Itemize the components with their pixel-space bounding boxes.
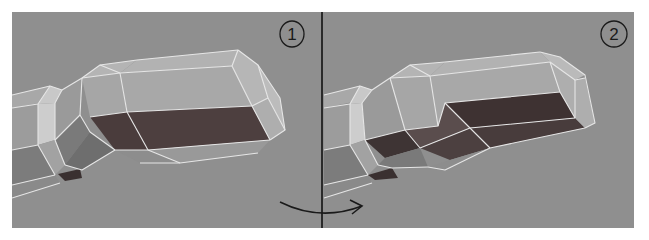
mesh-face <box>38 103 55 145</box>
mesh-face <box>12 104 38 150</box>
mesh-face <box>120 66 252 112</box>
panel-1 <box>12 12 322 228</box>
panel-2 <box>322 12 634 228</box>
mesh-face <box>82 73 127 117</box>
mesh-face <box>324 104 350 150</box>
panel-number: 1 <box>287 25 296 44</box>
panels <box>12 12 634 228</box>
mesh-comparison-figure: 12 <box>0 0 649 240</box>
panel-number: 2 <box>609 25 618 44</box>
